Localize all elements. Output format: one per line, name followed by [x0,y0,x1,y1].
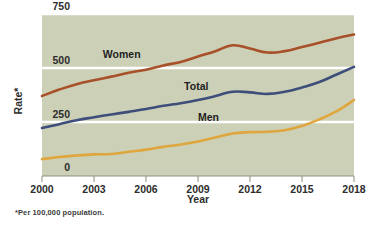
series-label-men: Men [198,111,219,123]
y-tick-label-0: 0 [64,161,70,173]
x-tick-label-2006: 2006 [134,183,158,195]
y-tick-label-500: 500 [52,54,70,66]
chart-footnote: *Per 100,000 population. [15,208,104,217]
plot-area-background [42,14,354,176]
y-tick-label-250: 250 [52,108,70,120]
chart-figure: 0250500750 2000200320062009201220152018 … [0,0,380,234]
series-label-women: Women [103,48,141,60]
line-chart-svg: 0250500750 2000200320062009201220152018 … [0,0,380,234]
x-tick-label-2003: 2003 [82,183,106,195]
y-tick-label-750: 750 [52,0,70,12]
x-tick-label-2000: 2000 [30,183,54,195]
series-label-total: Total [184,80,208,92]
x-tick-label-2012: 2012 [238,183,262,195]
x-tick-label-2015: 2015 [290,183,314,195]
x-axis-title: Year [187,193,209,205]
x-tick-label-2018: 2018 [342,183,366,195]
y-axis-title: Rate* [12,87,24,115]
